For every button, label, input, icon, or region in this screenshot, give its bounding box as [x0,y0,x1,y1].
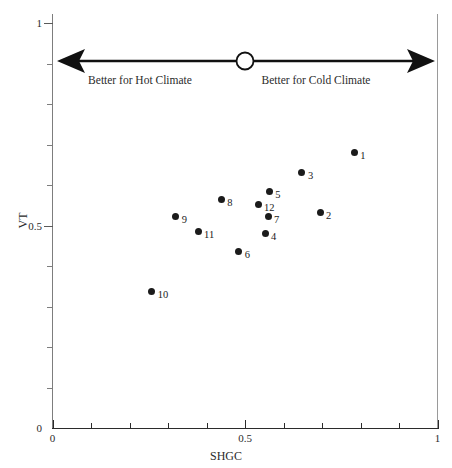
y-axis-minor-tick [47,388,53,389]
y-axis-title: VT [16,191,31,251]
data-point-label: 10 [158,289,169,300]
data-point [148,288,155,295]
data-point-label: 9 [182,214,187,225]
data-point [265,213,272,220]
data-point [262,230,269,237]
y-axis-minor-tick [47,145,53,146]
double-arrow-icon [55,44,437,78]
data-point-label: 4 [271,230,276,241]
y-axis-minor-tick [47,185,53,186]
data-point-label: 7 [274,214,279,225]
data-point [266,188,273,195]
x-axis-minor-tick [322,423,323,429]
x-axis-title: SHGC [0,449,452,464]
y-axis-major-tick [44,23,53,24]
x-axis-minor-tick [130,423,131,429]
data-point [317,209,324,216]
y-axis-major-tick [44,226,53,227]
data-point-label: 8 [227,196,232,207]
y-axis-minor-tick [47,307,53,308]
data-point [235,248,242,255]
x-axis-tick-label: 1 [435,432,441,444]
y-axis-tick-label: 1 [18,17,42,29]
x-axis-tick-label: 0 [50,432,56,444]
x-axis-major-tick [438,420,439,429]
data-point-label: 5 [275,189,280,200]
y-axis-minor-tick [47,347,53,348]
climate-direction-annotation: Better for Hot Climate Better for Cold C… [55,44,437,78]
x-axis-minor-tick [399,423,400,429]
x-axis-major-tick [53,420,54,429]
x-axis-minor-tick [91,423,92,429]
data-point-label: 1 [360,149,365,160]
data-point-label: 3 [308,170,313,181]
right-spine-line [437,14,438,429]
y-axis-line [52,14,53,429]
x-axis-major-tick [245,420,246,429]
y-axis-minor-tick [47,104,53,105]
data-point [351,149,358,156]
data-point [255,201,262,208]
x-axis-minor-tick [207,423,208,429]
x-axis-minor-tick [168,423,169,429]
data-point [218,196,225,203]
y-axis-tick-label: 0 [18,422,42,434]
annotation-cold-climate-label: Better for Cold Climate [262,74,371,86]
x-axis-tick-label: 0.5 [238,432,252,444]
y-axis-minor-tick [47,266,53,267]
data-point-label: 12 [264,202,275,213]
scatter-chart-figure: 00.5100.51 SHGC VT Better for Hot Climat… [0,0,452,468]
y-axis-minor-tick [47,64,53,65]
data-point [298,169,305,176]
data-point [172,213,179,220]
data-point-label: 2 [326,209,331,220]
data-point-label: 6 [245,249,250,260]
data-point [195,228,202,235]
x-axis-minor-tick [284,423,285,429]
x-axis-minor-tick [361,423,362,429]
annotation-hot-climate-label: Better for Hot Climate [88,74,192,86]
data-point-label: 11 [204,228,214,239]
